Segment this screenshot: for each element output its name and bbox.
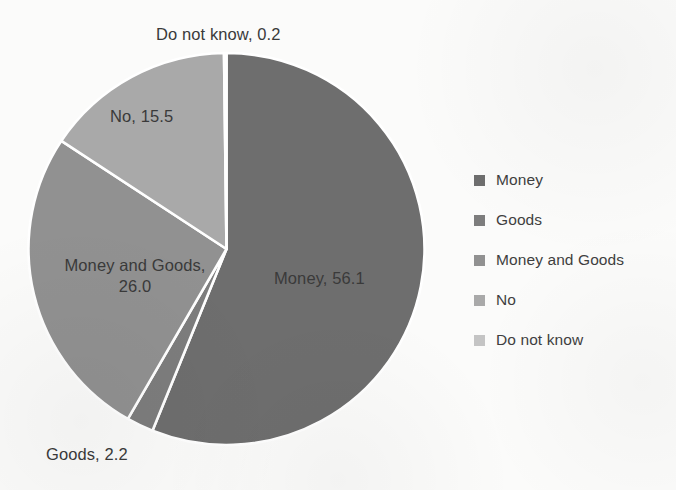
legend-item-money[interactable]: Money <box>474 160 624 200</box>
pie-label-do-not-know: Do not know, 0.2 <box>156 24 281 44</box>
pie-slice-group <box>28 53 424 445</box>
legend-item-label: Goods <box>496 211 542 229</box>
chart-legend: MoneyGoodsMoney and GoodsNoDo not know <box>474 160 624 360</box>
square-swatch-icon <box>474 295 485 306</box>
scan-artifact <box>2 466 5 481</box>
legend-item-label: Money and Goods <box>496 251 624 269</box>
pie-label-money-and-goods-line2: 26.0 <box>40 276 230 296</box>
legend-item-label: No <box>496 291 516 309</box>
pie-label-money: Money, 56.1 <box>274 268 365 288</box>
square-swatch-icon <box>474 335 485 346</box>
square-swatch-icon <box>474 255 485 266</box>
square-swatch-icon <box>474 175 485 186</box>
pie-label-goods: Goods, 2.2 <box>46 444 128 464</box>
pie-label-no: No, 15.5 <box>110 106 173 126</box>
legend-item-label: Do not know <box>496 331 583 349</box>
square-swatch-icon <box>474 215 485 226</box>
scan-artifact <box>600 378 603 393</box>
legend-item-goods[interactable]: Goods <box>474 200 624 240</box>
legend-item-do-not-know[interactable]: Do not know <box>474 320 624 360</box>
legend-item-money-and-goods[interactable]: Money and Goods <box>474 240 624 280</box>
legend-item-no[interactable]: No <box>474 280 624 320</box>
pie-label-money-and-goods-line1: Money and Goods, <box>40 255 230 275</box>
pie-chart: Do not know, 0.2 No, 15.5 Money and Good… <box>0 0 676 490</box>
legend-item-label: Money <box>496 171 543 189</box>
